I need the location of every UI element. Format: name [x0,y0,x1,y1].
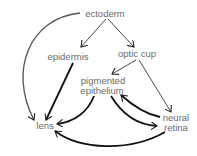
arrow-pigmented-neural-retina [111,96,157,126]
arrow-ectoderm-optic-cup [108,19,134,47]
node-optic-cup: optic cup [118,48,156,59]
arrow-epidermis-lens [46,63,73,120]
node-ectoderm: ectoderm [85,8,125,19]
arrow-optic-cup-pigmented [112,60,136,74]
node-neural-line2: retina [164,122,188,133]
arrow-neural-retina-lens [55,131,165,146]
arrow-ectoderm-epidermis [81,19,106,47]
node-pigmented-line2: epithelium [80,85,123,96]
arrow-pigmented-lens [57,96,94,124]
lens-induction-diagram: ectoderm epidermis optic cup pigmented e… [0,0,197,156]
node-lens: lens [36,120,54,131]
node-epidermis: epidermis [47,51,88,62]
arrow-optic-cup-neural-retina [139,60,171,112]
